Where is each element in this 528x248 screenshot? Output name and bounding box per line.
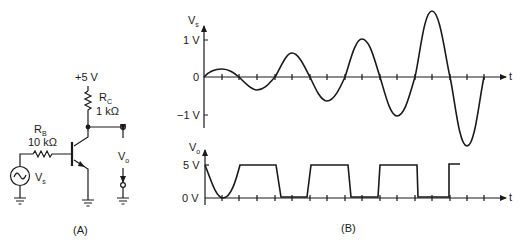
vs-axis-title: Vs [188,14,199,28]
vs-ytick-1: 1 V [183,34,200,46]
vo-ytick-5: 5 V [183,159,200,171]
vs-ytick-0: 0 [193,71,199,83]
vo-chart: Vo t 5 V 0 V [182,141,512,205]
rc-value: 1 kΩ [96,105,119,117]
rb-resistor [20,151,72,166]
vs-ytick-neg1: −1 V [177,109,201,121]
rb-label: RB [34,123,47,137]
panel-a-label: (A) [73,224,88,236]
supply-label: +5 V [75,71,99,83]
ground-icon [82,200,94,206]
figure-canvas: +5 V RC 1 kΩ RB 10 kΩ Vs [0,0,528,248]
rc-resistor [85,91,91,127]
vs-waveform [204,11,484,146]
vo-ytick-0: 0 V [182,192,199,204]
vo-waveform [205,164,460,198]
vo-t-label: t [509,191,512,203]
source-label: Vs [35,171,46,185]
emitter-arrow-icon [78,161,85,167]
collector-lead [74,127,88,146]
circuit-diagram: +5 V RC 1 kΩ RB 10 kΩ Vs [11,71,130,236]
panel-b-label: (B) [341,222,356,234]
vo-axis-title: Vo [189,141,200,155]
ground-icon [14,198,26,204]
output-label: Vo [118,150,129,164]
output-terminal-bottom [121,183,126,188]
ground-icon [117,198,129,204]
rb-value: 10 kΩ [28,136,57,148]
output-terminal-top [121,125,126,130]
rc-label: RC [99,91,112,105]
vs-t-label: t [509,70,512,82]
vs-chart: Vs t 1 V 0 −1 V [177,11,512,146]
